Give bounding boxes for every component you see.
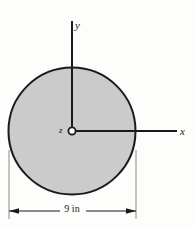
dimension-label: 9 in xyxy=(61,203,82,214)
dimension-label-container: 9 in xyxy=(0,203,194,214)
z-axis-label: z xyxy=(59,126,63,135)
x-axis-label: x xyxy=(180,126,185,137)
cross-section-figure xyxy=(0,0,194,227)
z-axis-out-of-page-icon xyxy=(68,127,75,134)
figure-container: y x z 9 in xyxy=(0,0,194,227)
y-axis-label: y xyxy=(75,20,80,31)
